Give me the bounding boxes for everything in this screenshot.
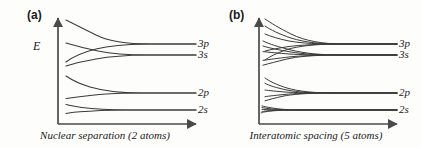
level-label-3s: 3s xyxy=(198,49,208,60)
curve-2p-lower xyxy=(66,93,196,98)
level-label-3s: 3s xyxy=(399,49,409,60)
level-label-2s: 2s xyxy=(198,104,208,115)
panel-b-plot xyxy=(211,0,421,148)
x-axis-caption-b: Interatomic spacing (5 atoms) xyxy=(211,129,421,141)
curve-2p-b1 xyxy=(265,78,397,93)
panel-b-tag: (b) xyxy=(229,8,244,22)
panel-a: (a) E 3p 3s 2p 2s Nuclear separation (2 … xyxy=(0,0,210,148)
level-curves-group xyxy=(261,19,397,113)
x-axis-caption-a: Nuclear separation (2 atoms) xyxy=(0,129,210,141)
curve-3s-b5 xyxy=(263,55,397,65)
level-label-2p: 2p xyxy=(198,87,209,98)
panel-a-tag: (a) xyxy=(27,8,42,22)
energy-band-splitting-figure: (a) E 3p 3s 2p 2s Nuclear separation (2 … xyxy=(0,0,421,148)
curve-2s-lower xyxy=(66,110,196,113)
curve-2s-b5 xyxy=(261,110,397,113)
curve-3s-lower xyxy=(66,55,196,66)
energy-axis-label-a: E xyxy=(33,39,40,54)
level-label-2p: 2p xyxy=(399,87,410,98)
curve-3p-lower xyxy=(66,44,196,62)
level-label-2s: 2s xyxy=(399,104,409,115)
curve-2s-upper xyxy=(66,105,196,110)
curve-2p-upper xyxy=(66,76,196,93)
panel-a-plot xyxy=(0,0,210,148)
panel-b: (b) 3p 3s 2p 2s Interatomic spacing (5 a… xyxy=(211,0,421,148)
curve-3s-b3 xyxy=(263,52,397,55)
level-curves-group xyxy=(66,20,196,113)
curve-3p-upper xyxy=(66,20,196,44)
curve-3p-b2 xyxy=(265,26,397,44)
